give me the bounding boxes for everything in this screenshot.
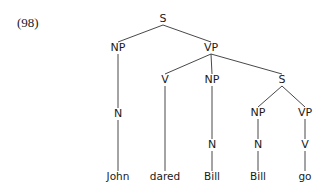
tree-leaf: John <box>106 170 130 182</box>
tree-edge <box>118 25 163 42</box>
tree-edge <box>282 86 305 107</box>
tree-node: S <box>160 12 167 25</box>
tree-node: N <box>114 107 122 120</box>
tree-edge <box>258 86 282 107</box>
tree-node: N <box>254 138 262 151</box>
tree-node: S <box>279 73 286 86</box>
tree-node: NP <box>251 106 266 119</box>
tree-node: V <box>301 138 309 151</box>
tree-leaf: go <box>298 170 311 182</box>
tree-edge <box>211 54 212 74</box>
tree-node: VP <box>298 106 313 119</box>
tree-node: V <box>161 73 169 86</box>
tree-leaf: dared <box>150 170 180 182</box>
tree-node: N <box>208 138 216 151</box>
tree-node: NP <box>111 41 126 54</box>
tree-node: NP <box>205 73 220 86</box>
tree-leaf: Bill <box>204 170 220 182</box>
tree-edge <box>211 54 282 74</box>
syntax-tree: SNPVPNVNPSNNPVPNVJohndaredBillBillgo <box>0 0 330 192</box>
tree-node: VP <box>204 41 219 54</box>
tree-edge <box>163 25 211 42</box>
tree-edge <box>165 54 211 74</box>
tree-leaf: Bill <box>250 170 266 182</box>
tree-nodes: SNPVPNVNPSNNPVPNVJohndaredBillBillgo <box>106 12 313 182</box>
